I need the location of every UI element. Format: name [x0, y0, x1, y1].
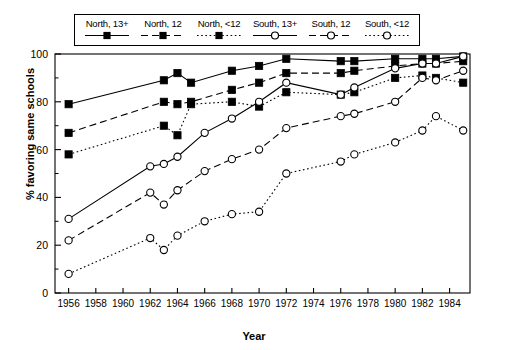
- data-point-marker: [432, 77, 439, 84]
- y-tick-label: 40: [36, 191, 48, 203]
- data-point-marker: [201, 129, 208, 136]
- y-tick-label: 100: [30, 48, 48, 60]
- data-point-marker: [187, 79, 194, 86]
- x-tick-label: 1960: [112, 298, 135, 309]
- data-point-marker: [228, 115, 235, 122]
- data-point-marker: [392, 55, 399, 62]
- data-point-marker: [392, 74, 399, 81]
- data-point-marker: [283, 70, 290, 77]
- x-tick-label: 1962: [139, 298, 162, 309]
- data-point-marker: [351, 151, 358, 158]
- y-tick-label: 0: [42, 287, 48, 299]
- data-point-marker: [147, 234, 154, 241]
- data-point-marker: [351, 67, 358, 74]
- data-point-marker: [174, 101, 181, 108]
- data-point-marker: [228, 98, 235, 105]
- y-axis-title: % favoring same schools: [24, 64, 36, 204]
- data-point-marker: [351, 58, 358, 65]
- data-point-marker: [65, 270, 72, 277]
- data-point-marker: [65, 129, 72, 136]
- x-tick-label: 1974: [302, 298, 325, 309]
- data-point-marker: [337, 113, 344, 120]
- data-point-marker: [174, 153, 181, 160]
- x-tick-label: 1966: [194, 298, 217, 309]
- data-point-marker: [187, 101, 194, 108]
- x-tick-label: 1964: [166, 298, 189, 309]
- x-tick-label: 1958: [85, 298, 108, 309]
- series-line: [69, 56, 464, 219]
- data-point-marker: [432, 60, 439, 67]
- data-point-marker: [392, 139, 399, 146]
- x-tick-label: 1968: [221, 298, 244, 309]
- x-tick-label: 1980: [384, 298, 407, 309]
- data-point-marker: [460, 67, 467, 74]
- data-point-marker: [65, 215, 72, 222]
- data-point-marker: [160, 98, 167, 105]
- data-point-marker: [460, 79, 467, 86]
- data-point-marker: [65, 151, 72, 158]
- data-point-marker: [419, 60, 426, 67]
- data-point-marker: [337, 58, 344, 65]
- data-point-marker: [174, 187, 181, 194]
- data-point-marker: [256, 208, 263, 215]
- data-point-marker: [283, 89, 290, 96]
- x-tick-label: 1982: [411, 298, 434, 309]
- series-line: [69, 116, 464, 274]
- data-point-marker: [228, 156, 235, 163]
- x-axis-title: Year: [0, 330, 508, 342]
- data-point-marker: [283, 170, 290, 177]
- series-line: [69, 76, 464, 155]
- data-point-marker: [174, 70, 181, 77]
- data-point-marker: [160, 160, 167, 167]
- data-point-marker: [283, 55, 290, 62]
- data-point-marker: [160, 77, 167, 84]
- data-point-marker: [160, 122, 167, 129]
- data-point-marker: [147, 163, 154, 170]
- data-point-marker: [283, 124, 290, 131]
- plot-frame: [55, 54, 470, 293]
- data-point-marker: [256, 146, 263, 153]
- data-point-marker: [228, 86, 235, 93]
- data-point-marker: [65, 101, 72, 108]
- x-tick-label: 1972: [275, 298, 298, 309]
- y-tick-label: 20: [36, 239, 48, 251]
- data-point-marker: [147, 189, 154, 196]
- data-point-marker: [228, 67, 235, 74]
- data-point-marker: [256, 62, 263, 69]
- x-tick-label: 1978: [357, 298, 380, 309]
- data-point-marker: [174, 232, 181, 239]
- x-tick-label: 1970: [248, 298, 271, 309]
- data-point-marker: [460, 53, 467, 60]
- series-line: [69, 71, 464, 241]
- data-point-marker: [337, 91, 344, 98]
- x-tick-label: 1984: [438, 298, 461, 309]
- data-point-marker: [283, 79, 290, 86]
- data-point-marker: [460, 127, 467, 134]
- data-point-marker: [419, 127, 426, 134]
- data-point-marker: [256, 98, 263, 105]
- data-point-marker: [351, 84, 358, 91]
- data-point-marker: [392, 98, 399, 105]
- data-point-marker: [256, 79, 263, 86]
- data-point-marker: [432, 113, 439, 120]
- data-point-marker: [65, 237, 72, 244]
- data-point-marker: [228, 211, 235, 218]
- data-point-marker: [201, 218, 208, 225]
- data-point-marker: [392, 65, 399, 72]
- data-point-marker: [174, 132, 181, 139]
- data-point-marker: [160, 246, 167, 253]
- y-tick-label: 80: [36, 96, 48, 108]
- x-tick-label: 1976: [330, 298, 353, 309]
- chart-plot-area: 0204060801001956195819601962196419661968…: [0, 0, 508, 350]
- series-south-12: [65, 67, 467, 244]
- data-point-marker: [351, 110, 358, 117]
- x-tick-label: 1956: [57, 298, 80, 309]
- data-point-marker: [160, 201, 167, 208]
- y-tick-label: 60: [36, 144, 48, 156]
- data-point-marker: [201, 168, 208, 175]
- series-north-13: [65, 53, 467, 108]
- data-point-marker: [337, 70, 344, 77]
- data-point-marker: [337, 158, 344, 165]
- data-point-marker: [419, 74, 426, 81]
